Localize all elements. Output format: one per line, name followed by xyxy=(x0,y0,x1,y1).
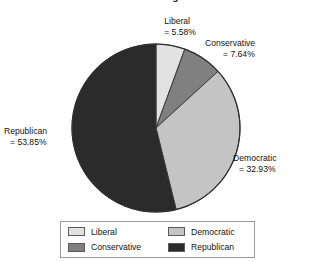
legend-item-republican[interactable]: Republican xyxy=(168,240,263,255)
legend-swatch-liberal-icon xyxy=(68,227,85,236)
slice-label-conservative-name: Conservative xyxy=(205,38,309,49)
slice-label-democratic-name: Democratic xyxy=(233,153,315,164)
slice-label-republican: Republican = 53.85% xyxy=(4,126,74,147)
legend-label-conservative: Conservative xyxy=(91,242,141,252)
legend-item-democratic[interactable]: Democratic xyxy=(168,224,263,239)
slice-label-republican-name: Republican xyxy=(4,126,74,137)
legend-item-liberal[interactable]: Liberal xyxy=(68,224,168,239)
slice-label-democratic-value: = 32.93% xyxy=(233,164,315,175)
legend-swatch-conservative-icon xyxy=(68,243,85,252)
pie-slice-group xyxy=(72,44,240,212)
slice-label-democratic: Democratic = 32.93% xyxy=(233,153,315,174)
slice-label-liberal-value: = 5.58% xyxy=(118,27,196,38)
pie-chart-figure: Percentage Liberal = 5.58% Conservative … xyxy=(0,0,315,262)
chart-legend: LiberalDemocraticConservativeRepublican xyxy=(60,221,255,258)
legend-label-democratic: Democratic xyxy=(191,227,234,237)
legend-item-conservative[interactable]: Conservative xyxy=(68,240,168,255)
slice-label-conservative-value: = 7.64% xyxy=(205,49,309,60)
slice-label-liberal: Liberal = 5.58% xyxy=(118,16,196,37)
slice-label-liberal-name: Liberal xyxy=(118,16,196,27)
legend-label-liberal: Liberal xyxy=(91,227,117,237)
slice-label-republican-value: = 53.85% xyxy=(4,137,74,148)
slice-label-conservative: Conservative = 7.64% xyxy=(205,38,309,59)
legend-swatch-democratic-icon xyxy=(168,227,185,236)
legend-label-republican: Republican xyxy=(191,242,234,252)
legend-swatch-republican-icon xyxy=(168,243,185,252)
